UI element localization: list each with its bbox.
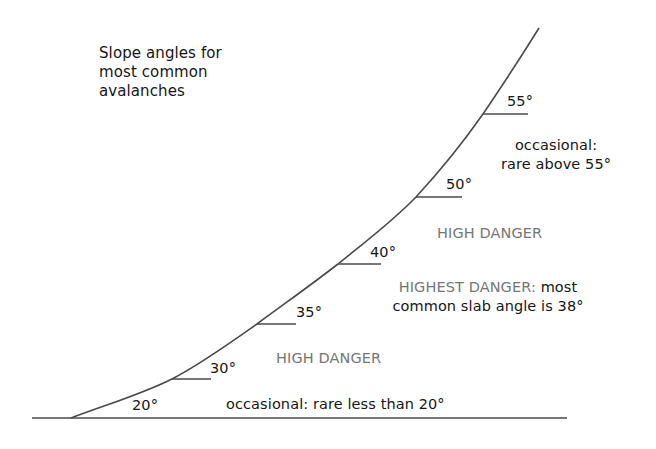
title-line-3: avalanches: [99, 82, 259, 101]
diagram-title: Slope angles for most common avalanches: [99, 44, 259, 101]
title-line-2: most common: [99, 63, 259, 82]
zone-below-20: occasional: rare less than 20°: [226, 395, 445, 414]
zone-highest-danger-line-2: common slab angle is 38°: [372, 297, 604, 316]
angle-label-35: 35°: [296, 303, 322, 322]
angle-label-50: 50°: [446, 175, 472, 194]
zone-above-55-line-1: occasional:: [480, 136, 632, 155]
highest-danger-heading: HIGHEST DANGER:: [399, 279, 536, 295]
angle-label-20: 20°: [132, 396, 158, 415]
highest-danger-text: most: [536, 279, 577, 295]
zone-above-55-line-2: rare above 55°: [480, 155, 632, 174]
zone-highest-danger: HIGHEST DANGER: most common slab angle i…: [372, 278, 604, 316]
title-line-1: Slope angles for: [99, 44, 259, 63]
zone-high-danger-upper: HIGH DANGER: [437, 224, 542, 243]
angle-label-40: 40°: [370, 243, 396, 262]
zone-above-55: occasional: rare above 55°: [480, 136, 632, 174]
angle-label-55: 55°: [507, 92, 533, 111]
zone-highest-danger-line-1: HIGHEST DANGER: most: [372, 278, 604, 297]
zone-high-danger-lower: HIGH DANGER: [276, 349, 381, 368]
angle-label-30: 30°: [210, 359, 236, 378]
